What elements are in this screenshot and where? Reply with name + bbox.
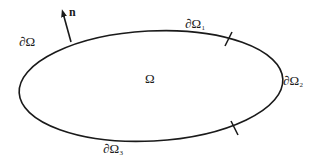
boundary-segment-1-sub: 1	[202, 24, 206, 32]
boundary-segment-1-label: ∂Ω1	[185, 17, 205, 32]
boundary-segment-2-base: ∂Ω	[283, 73, 299, 88]
domain-diagram	[0, 0, 321, 159]
normal-vector-label: n	[69, 6, 76, 18]
domain-boundary	[16, 24, 285, 148]
boundary-segment-3-base: ∂Ω	[103, 141, 119, 156]
domain-label: Ω	[145, 72, 155, 85]
boundary-segment-2-label: ∂Ω2	[283, 74, 303, 89]
boundary-label: ∂Ω	[19, 35, 35, 48]
boundary-segment-3-label: ∂Ω3	[103, 142, 123, 157]
boundary-tick-lower	[231, 121, 238, 135]
boundary-segment-1-base: ∂Ω	[185, 16, 201, 31]
boundary-segment-2-sub: 2	[300, 81, 304, 89]
boundary-segment-3-sub: 3	[120, 149, 124, 157]
